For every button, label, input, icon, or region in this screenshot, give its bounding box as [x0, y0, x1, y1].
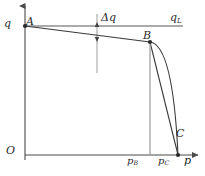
saturation-line-label: qL: [170, 12, 182, 24]
tick-label-p-B: pB: [127, 156, 138, 167]
x-axis-label: p: [184, 155, 191, 166]
delta-q-arrow-bottom: [95, 37, 100, 42]
branch-A-to-B: [25, 26, 150, 42]
point-C-marker: [176, 153, 180, 157]
point-label-A: A: [26, 16, 34, 27]
point-label-B: B: [143, 30, 151, 41]
saturation-line-label-base: q: [170, 11, 177, 24]
point-label-C: C: [176, 128, 184, 139]
tick-label-p-B-sub: B: [133, 159, 138, 166]
tick-label-p-C-sub: C: [164, 159, 169, 166]
origin-label: O: [6, 145, 15, 156]
adsorption-isotherm-figure: q A Δq qL B C O pB pC p: [0, 0, 205, 176]
tick-label-p-C: pC: [158, 156, 169, 167]
y-axis-label: q: [4, 18, 11, 29]
saturation-line-label-sub: L: [177, 17, 182, 25]
delta-q-label: Δq: [101, 12, 116, 23]
delta-q-arrow-top: [95, 22, 100, 27]
